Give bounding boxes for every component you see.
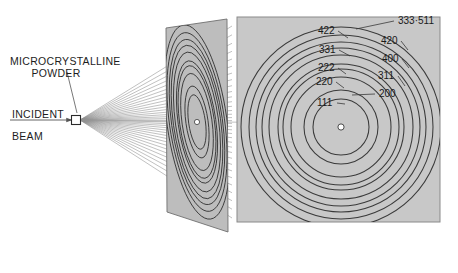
ring-index-label-311: 311 (378, 70, 394, 81)
ring-index-label-331: 331 (319, 44, 336, 55)
tilted-panel-center-dot (194, 119, 199, 124)
ring-index-label-222: 222 (318, 62, 335, 73)
ring-index-label-333·511: 333·511 (398, 15, 434, 26)
powder-sample-square (72, 116, 81, 125)
figure-root: 333·511422420331400222311220200111 MICRO… (0, 0, 458, 273)
diffraction-diagram-svg: 333·511422420331400222311220200111 (0, 0, 458, 273)
incident-label: INCIDENT (12, 108, 64, 120)
ring-index-label-422: 422 (318, 25, 335, 36)
ring-index-label-200: 200 (379, 88, 396, 99)
powder-label-line1: MICROCRYSTALLINE (10, 55, 121, 67)
ring-index-label-111: 111 (317, 97, 333, 108)
ring-index-label-400: 400 (382, 53, 399, 64)
microcrystalline-powder-label: MICROCRYSTALLINE POWDER (10, 55, 102, 79)
ring-index-label-220: 220 (316, 76, 333, 87)
powder-label-line2: POWDER (10, 67, 102, 79)
ring-index-label-420: 420 (381, 35, 398, 46)
beam-center-dot (338, 124, 344, 130)
beam-label: BEAM (12, 130, 43, 142)
